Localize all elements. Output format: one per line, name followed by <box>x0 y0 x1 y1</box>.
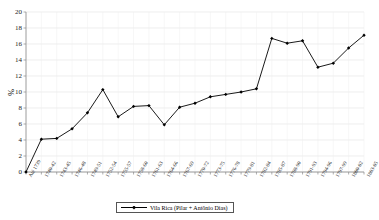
y-axis-tick-label: 20 <box>6 8 22 16</box>
chart-legend: Vila Rica (Pilar + Antônio Dias) <box>116 202 234 213</box>
y-axis-label: % <box>7 78 16 108</box>
legend-label: Vila Rica (Pilar + Antônio Dias) <box>150 205 228 211</box>
y-axis-tick-label: 0 <box>6 168 22 176</box>
y-axis-tick-label: 2 <box>6 152 22 160</box>
y-axis-tick-label: 18 <box>6 24 22 32</box>
legend-series-marker-icon <box>121 204 147 211</box>
y-axis-tick-label: 16 <box>6 40 22 48</box>
y-axis-tick-label: 14 <box>6 56 22 64</box>
y-axis-tick-label: 6 <box>6 120 22 128</box>
y-axis-tick-label: 4 <box>6 136 22 144</box>
